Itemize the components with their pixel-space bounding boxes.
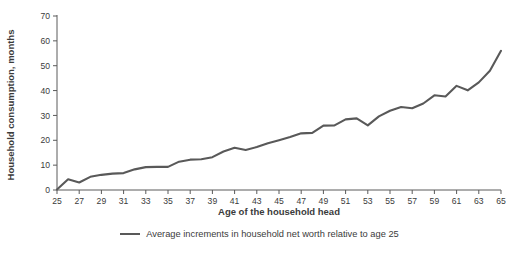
svg-text:63: 63 xyxy=(474,196,484,206)
x-axis-title: Age of the household head xyxy=(57,206,501,217)
svg-text:50: 50 xyxy=(40,61,50,71)
svg-text:41: 41 xyxy=(230,196,240,206)
legend-label: Average increments in household net wort… xyxy=(146,229,399,239)
svg-text:0: 0 xyxy=(45,185,50,195)
data-series-line xyxy=(57,51,501,190)
svg-text:70: 70 xyxy=(40,11,50,21)
svg-text:35: 35 xyxy=(163,196,173,206)
svg-text:47: 47 xyxy=(296,196,306,206)
chart-legend: Average increments in household net wort… xyxy=(0,229,519,239)
svg-text:49: 49 xyxy=(319,196,329,206)
svg-text:59: 59 xyxy=(430,196,440,206)
legend-line-swatch xyxy=(120,233,140,235)
svg-text:31: 31 xyxy=(119,196,129,206)
svg-text:60: 60 xyxy=(40,36,50,46)
svg-text:51: 51 xyxy=(341,196,351,206)
chart-container: Household consumption, months 0102030405… xyxy=(0,0,519,261)
svg-text:40: 40 xyxy=(40,86,50,96)
svg-text:65: 65 xyxy=(496,196,506,206)
svg-text:45: 45 xyxy=(274,196,284,206)
svg-text:33: 33 xyxy=(141,196,151,206)
svg-text:20: 20 xyxy=(40,135,50,145)
svg-text:37: 37 xyxy=(185,196,195,206)
axes xyxy=(53,15,501,194)
svg-text:10: 10 xyxy=(40,160,50,170)
svg-text:39: 39 xyxy=(208,196,218,206)
svg-text:55: 55 xyxy=(385,196,395,206)
svg-text:61: 61 xyxy=(452,196,462,206)
tick-labels: 0102030405060702527293133353739414345474… xyxy=(40,11,506,206)
svg-text:57: 57 xyxy=(407,196,417,206)
svg-text:25: 25 xyxy=(52,196,62,206)
svg-text:53: 53 xyxy=(363,196,373,206)
chart-plot-area: 0102030405060702527293133353739414345474… xyxy=(0,0,519,261)
svg-text:27: 27 xyxy=(74,196,84,206)
svg-text:29: 29 xyxy=(97,196,107,206)
svg-text:43: 43 xyxy=(252,196,262,206)
svg-text:30: 30 xyxy=(40,111,50,121)
